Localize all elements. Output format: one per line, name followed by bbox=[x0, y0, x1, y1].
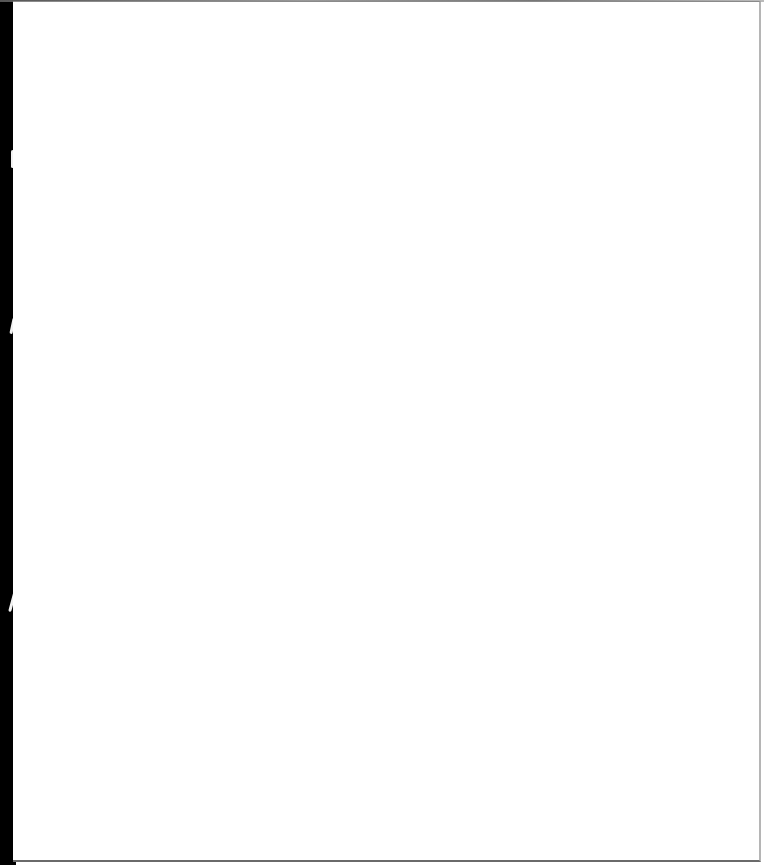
scanned-document bbox=[0, 0, 764, 865]
page-content bbox=[13, 2, 759, 860]
blank-page bbox=[13, 1, 761, 862]
